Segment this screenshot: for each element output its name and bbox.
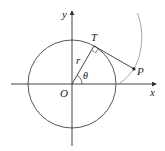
- x-axis-label: x: [149, 86, 155, 98]
- origin-label: O: [60, 87, 68, 99]
- angle-arc: [77, 75, 82, 84]
- tangent-line: [94, 46, 134, 69]
- y-axis-label: y: [61, 8, 67, 20]
- tangent-point-label: T: [91, 31, 98, 43]
- radius-label: r: [76, 54, 81, 66]
- curve-point-label: P: [136, 65, 144, 77]
- involute-diagram: y x O T P r θ: [0, 0, 165, 151]
- point-p-dot: [132, 67, 135, 70]
- angle-label: θ: [83, 70, 88, 81]
